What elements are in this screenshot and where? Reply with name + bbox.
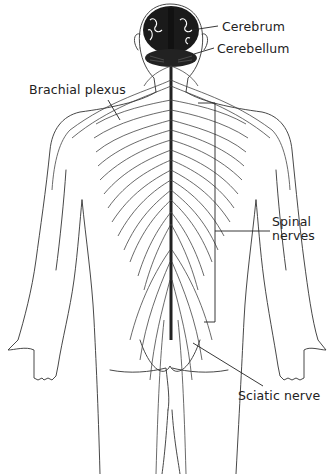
brain	[143, 6, 199, 67]
cerebrum-label: Cerebrum	[222, 20, 285, 34]
cerebellum-label: Cerebellum	[217, 42, 290, 56]
body-outline	[8, 92, 156, 380]
cerebellum-leader	[194, 48, 214, 54]
sciatic-nerve-label: Sciatic nerve	[238, 389, 320, 403]
brachial-plexus-label: Brachial plexus	[29, 83, 126, 97]
spinal-nerves-label-line1: Spinal	[272, 215, 329, 229]
spinal-nerves-label-line2: nerves	[272, 229, 329, 243]
spinal-nerves-bracket	[198, 103, 215, 322]
sciatic-nerve-leader	[193, 343, 263, 386]
spinal-nerves-label: Spinal nerves	[272, 215, 329, 243]
